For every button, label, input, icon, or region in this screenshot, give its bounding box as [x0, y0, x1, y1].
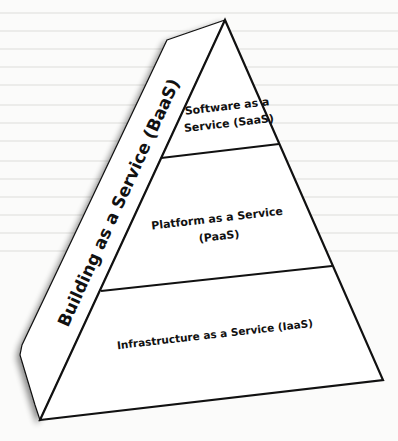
pyramid-diagram: Building as a Service (BaaS) Software as…: [0, 0, 398, 441]
